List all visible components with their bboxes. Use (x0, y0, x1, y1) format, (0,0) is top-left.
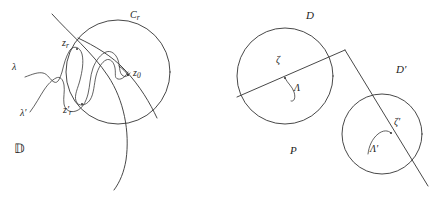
label-Cr: Cr (130, 10, 140, 21)
label-z0: z0 (133, 68, 141, 79)
point-zeta-prime-dot (390, 132, 392, 134)
label-lambda: λ (12, 62, 16, 72)
point-zr-prime-dot (81, 103, 83, 105)
point-z0-dot (127, 74, 129, 76)
label-lambda-prime: λ′ (20, 108, 27, 118)
figure-canvas (0, 0, 446, 201)
label-D-prime: D′ (396, 64, 406, 75)
label-zeta-prime: ζ′ (394, 117, 400, 127)
label-P: P (290, 145, 297, 156)
label-Lambda-prime: Λ′ (370, 144, 378, 154)
arc-secondary (78, 38, 157, 118)
right-panel-graphics (237, 28, 428, 186)
label-zr-prime: z′r (63, 105, 72, 116)
circle-D-prime (342, 94, 422, 174)
left-panel-graphics (25, 14, 170, 190)
label-Lambda: Λ (294, 83, 300, 93)
point-zeta-dot (284, 77, 286, 79)
line-segment-left (237, 50, 345, 97)
label-blackboard-D: 𝔻 (14, 142, 25, 155)
point-zr-dot (76, 48, 78, 50)
label-zr: zr (62, 38, 69, 49)
label-zeta: ζ (276, 55, 280, 65)
math-figure: Cr zr z0 λ λ′ z′r 𝔻 D D′ ζ ζ′ Λ Λ′ P (0, 0, 446, 201)
label-D: D (306, 10, 314, 21)
